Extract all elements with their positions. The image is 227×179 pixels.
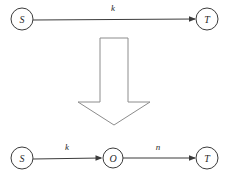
node-label-s-bottom: S	[20, 153, 25, 164]
node-o-bottom: O	[103, 148, 123, 168]
edge-line-k-top	[33, 19, 195, 20]
edge-label-k-bottom: k	[65, 142, 70, 152]
node-label-o-bottom: O	[109, 153, 116, 164]
arrowhead-k-top	[189, 16, 196, 22]
edge-label-k-top: k	[111, 3, 116, 13]
arrowhead-k-bottom	[96, 155, 103, 161]
arrowhead-n-bottom	[189, 155, 196, 161]
down-block-arrow-icon	[78, 38, 150, 125]
after-graph: k n S O T	[11, 142, 218, 169]
before-graph: k S T	[11, 3, 218, 30]
edge-line-k-bottom	[33, 158, 101, 159]
node-label-s-top: S	[20, 14, 25, 25]
edge-o-to-t-bottom: n	[123, 142, 196, 161]
node-s-bottom: S	[11, 147, 33, 169]
diagram-canvas: T ============ --> k S T O --n--> T ====…	[0, 0, 227, 179]
node-t-bottom: T	[196, 147, 218, 169]
edge-s-to-t-top: k	[33, 3, 196, 22]
edge-label-n-bottom: n	[156, 142, 161, 152]
graph-transformation-diagram: T ============ --> k S T O --n--> T ====…	[0, 0, 227, 179]
edge-s-to-o-bottom: k	[33, 142, 103, 161]
node-t-top: T	[196, 8, 218, 30]
node-s-top: S	[11, 8, 33, 30]
